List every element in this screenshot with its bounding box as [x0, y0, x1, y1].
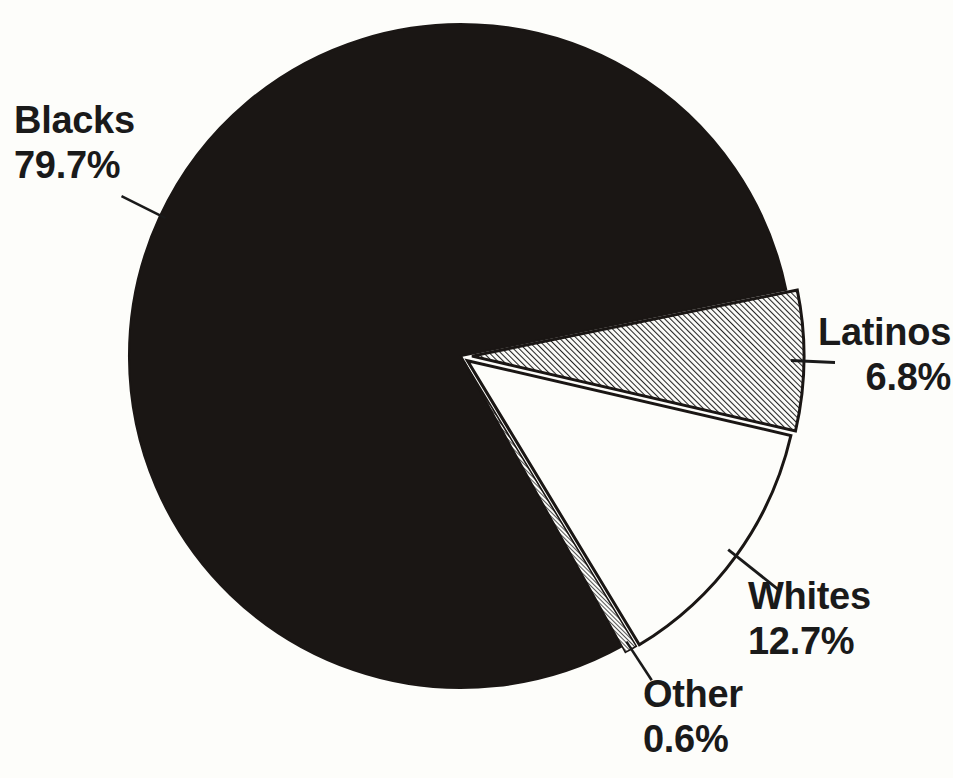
pie-label-latinos-name: Latinos	[818, 310, 951, 355]
pie-label-other: Other 0.6%	[643, 672, 743, 762]
pie-label-latinos: Latinos 6.8%	[818, 310, 951, 400]
pie-label-blacks-value: 79.7%	[14, 143, 135, 188]
pie-chart-figure: Blacks 79.7% Latinos 6.8% Whites 12.7% O…	[0, 0, 953, 778]
pie-label-whites-name: Whites	[748, 574, 871, 619]
pie-label-blacks: Blacks 79.7%	[14, 98, 135, 188]
leader-line-blacks	[122, 196, 166, 218]
pie-label-other-value: 0.6%	[643, 717, 743, 762]
pie-label-whites: Whites 12.7%	[748, 574, 871, 664]
pie-label-latinos-value: 6.8%	[818, 355, 951, 400]
pie-label-blacks-name: Blacks	[14, 98, 135, 143]
pie-label-other-name: Other	[643, 672, 743, 717]
pie-label-whites-value: 12.7%	[748, 619, 871, 664]
